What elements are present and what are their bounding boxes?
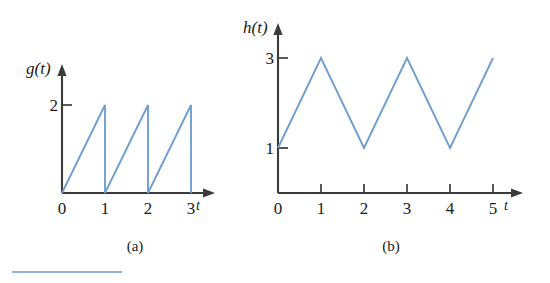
panel-caption-b: (b)	[361, 238, 421, 255]
x-tick-label-a-0: 0	[54, 200, 70, 217]
x-tick-label-a-1: 1	[97, 200, 113, 217]
y-axis-arrowhead-a	[57, 64, 66, 76]
chart-panel-b: h(t) t 1 3 0 1 2 3 4 5 (b)	[275, 0, 550, 283]
y-tick-label-a-0: 2	[42, 97, 58, 114]
x-axis-arrowhead-b	[511, 188, 523, 197]
x-axis-label-b: t	[504, 199, 508, 213]
y-axis-label-a: g(t)	[26, 60, 51, 77]
y-tick-label-b-1: 1	[258, 140, 274, 157]
figure-container: g(t) t 2 0 1 2 3 (a) h(t	[0, 0, 550, 283]
x-tick-label-a-2: 2	[140, 200, 156, 217]
x-axis-arrowhead-a	[203, 188, 215, 197]
x-tick-label-b-0: 0	[270, 200, 286, 217]
data-series-g-of-t	[62, 105, 191, 193]
y-axis-label-b: h(t)	[243, 19, 268, 36]
x-tick-label-b-4: 4	[442, 200, 458, 217]
x-tick-label-b-3: 3	[399, 200, 415, 217]
x-tick-label-a-3: 3	[183, 200, 199, 217]
data-series-h-of-t	[278, 58, 493, 148]
footer-divider-rule	[12, 271, 122, 273]
x-tick-label-b-5: 5	[485, 200, 501, 217]
y-tick-label-b-3: 3	[258, 50, 274, 67]
panel-caption-a: (a)	[105, 238, 165, 255]
chart-panel-a: g(t) t 2 0 1 2 3 (a)	[0, 0, 275, 283]
x-tick-label-b-2: 2	[356, 200, 372, 217]
y-axis-arrowhead-b	[273, 23, 282, 35]
x-tick-label-b-1: 1	[313, 200, 329, 217]
